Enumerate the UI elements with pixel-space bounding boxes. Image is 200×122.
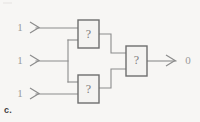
figure-canvas: ? ? ? 1 1 1 0 c. (0, 0, 200, 122)
circuit-diagram: ? ? ? 1 1 1 0 (0, 0, 200, 122)
output-value: 0 (185, 54, 191, 66)
gate-top-label: ? (86, 27, 91, 41)
input-middle-value: 1 (17, 54, 23, 66)
gate-bottom-label: ? (86, 82, 91, 96)
figure-letter-label: c. (4, 105, 12, 115)
wire-bottom-gate-output (99, 69, 127, 88)
input-bottom-value: 1 (17, 87, 23, 99)
input-top-value: 1 (17, 21, 23, 33)
wire-top-gate-output (99, 34, 127, 53)
gate-right-label: ? (134, 53, 139, 67)
